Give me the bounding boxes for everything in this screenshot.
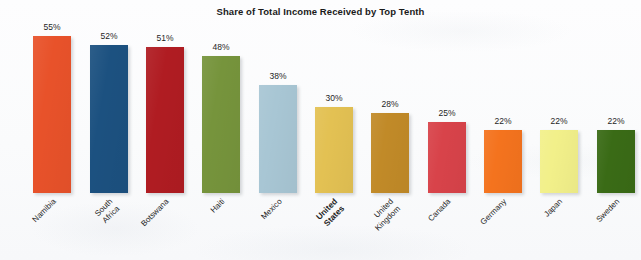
category-label: United States <box>315 197 347 229</box>
bar-value-label: 22% <box>597 116 635 126</box>
bar-group: 51% <box>146 47 184 193</box>
bar-value-label: 28% <box>371 99 409 109</box>
bar-group: 38% <box>259 85 297 193</box>
plot-area: 55%Namibia52%South Africa51%Botswana48%H… <box>0 0 641 260</box>
category-label: South Africa <box>93 197 121 225</box>
bar-chart: Share of Total Income Received by Top Te… <box>0 0 641 260</box>
category-label: Sweden <box>595 197 622 224</box>
category-label: Botswana <box>139 197 171 229</box>
bar-group: 22% <box>484 130 522 193</box>
bar-group: 25% <box>428 122 466 193</box>
bar-group: 28% <box>371 113 409 193</box>
bar <box>371 113 409 193</box>
category-label: United Kingdom <box>367 197 403 233</box>
bar-group: 22% <box>597 130 635 193</box>
bar <box>146 47 184 193</box>
bar-value-label: 48% <box>202 42 240 52</box>
bar <box>33 36 71 193</box>
bar-value-label: 22% <box>484 116 522 126</box>
bar <box>597 130 635 193</box>
bar-group: 22% <box>540 130 578 193</box>
bar-value-label: 55% <box>33 22 71 32</box>
bar-value-label: 52% <box>90 31 128 41</box>
category-label: Haiti <box>209 197 227 215</box>
category-label: Japan <box>543 197 565 219</box>
bar-value-label: 22% <box>540 116 578 126</box>
bar-group: 52% <box>90 45 128 193</box>
bar <box>484 130 522 193</box>
bar <box>90 45 128 193</box>
bar-value-label: 38% <box>259 71 297 81</box>
category-label: Germany <box>479 197 509 227</box>
bar <box>428 122 466 193</box>
bar <box>540 130 578 193</box>
bar-value-label: 30% <box>315 93 353 103</box>
bar-group: 55% <box>33 36 71 193</box>
bar-value-label: 51% <box>146 33 184 43</box>
bar <box>315 107 353 193</box>
category-label: Canada <box>426 197 453 224</box>
category-label: Mexico <box>259 197 284 222</box>
bar-group: 30% <box>315 107 353 193</box>
bar-group: 48% <box>202 56 240 193</box>
bar-value-label: 25% <box>428 108 466 118</box>
bar <box>202 56 240 193</box>
category-label: Namibia <box>30 197 57 224</box>
bar <box>259 85 297 193</box>
